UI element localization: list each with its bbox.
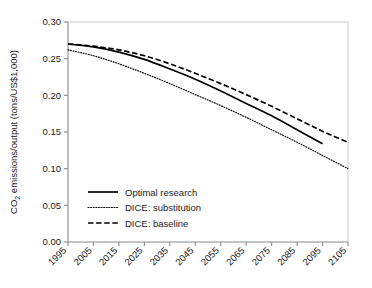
y-axis-title-co: CO [8,200,19,214]
series-line-dice-baseline [68,44,348,142]
x-tick-label: 2055 [198,245,221,268]
legend-label: Optimal research [125,187,197,198]
y-tick-label: 0.15 [43,126,62,137]
x-tick-label: 2015 [97,245,120,268]
x-tick-label: 2095 [300,245,323,268]
x-tick-label: 2085 [275,245,298,268]
x-tick-label: 2025 [122,245,145,268]
x-tick-label-group: 2065 [224,245,247,268]
y-axis-title: CO2 emissions/output (tons/US$1,000) [8,50,21,214]
x-tick-label-group: 2085 [275,245,298,268]
y-tick-label: 0.25 [43,53,62,64]
data-series-layer [68,44,348,169]
x-tick-label-group: 2095 [300,245,323,268]
legend-label: DICE: baseline [125,218,188,229]
y-tick-label: 0.20 [43,90,62,101]
x-axis-tick-labels: 1995200520152025203520452055206520752085… [46,245,349,268]
legend-label: DICE: substitution [125,202,201,213]
x-tick-label: 2005 [71,245,94,268]
x-tick-label: 2065 [224,245,247,268]
x-tick-label-group: 1995 [46,245,69,268]
x-tick-label: 2105 [326,245,349,268]
emissions-line-chart: 0.000.050.100.150.200.250.30 19952005201… [0,0,372,288]
chart-legend: Optimal researchDICE: substitutionDICE: … [88,187,201,229]
y-axis-title-rest: emissions/output (tons/US$1,000) [8,50,19,196]
x-tick-label-group: 2025 [122,245,145,268]
y-tick-label: 0.30 [43,16,62,27]
x-tick-label-group: 2005 [71,245,94,268]
y-axis-ticks [64,22,68,242]
x-tick-label-group: 2105 [326,245,349,268]
x-tick-label: 2045 [173,245,196,268]
x-tick-label-group: 2045 [173,245,196,268]
chart-figure: 0.000.050.100.150.200.250.30 19952005201… [0,0,372,288]
plot-frame [68,22,348,242]
x-tick-label-group: 2015 [97,245,120,268]
y-tick-label: 0.10 [43,163,62,174]
y-axis-tick-labels: 0.000.050.100.150.200.250.30 [43,16,62,247]
x-tick-label-group: 2055 [198,245,221,268]
x-tick-label: 1995 [46,245,69,268]
x-tick-label: 2035 [148,245,171,268]
series-line-dice-substitution [68,50,348,169]
x-tick-label-group: 2035 [148,245,171,268]
svg-text:CO2 emissions/output (tons/US$: CO2 emissions/output (tons/US$1,000) [8,50,21,214]
x-tick-label: 2075 [249,245,272,268]
x-tick-label-group: 2075 [249,245,272,268]
y-tick-label: 0.05 [43,200,62,211]
